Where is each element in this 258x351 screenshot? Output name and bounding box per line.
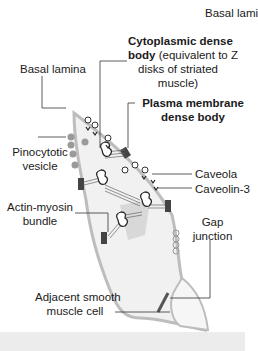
label-adjacent-smooth-muscle-cell: Adjacent smooth muscle cell [35, 290, 115, 318]
label-basal-lamina-top: Basal lamina [205, 6, 258, 20]
label-pinocytotic-line1: Pinocytotic [10, 145, 70, 159]
label-basal-lamina-left: Basal lamina [20, 62, 86, 76]
label-adjacent-line1: Adjacent smooth [35, 290, 115, 304]
label-gap-line2: junction [190, 229, 235, 243]
label-pinocytotic-vesicle: Pinocytotic vesicle [10, 145, 70, 173]
label-plasma-membrane-dense-body: Plasma membrane dense body [138, 96, 248, 124]
bottom-caption-bar [0, 332, 245, 351]
adjacent-cell [171, 278, 208, 330]
label-gap-junction: Gap junction [190, 215, 235, 243]
label-gap-line1: Gap [190, 215, 235, 229]
label-pinocytotic-line2: vesicle [10, 159, 70, 173]
label-actin-myosin-bundle: Actin-myosin bundle [5, 200, 75, 228]
label-cytoplasmic-line1: Cytoplasmic dense [128, 34, 228, 48]
label-caveola: Caveola [195, 167, 237, 181]
label-cytoplasmic-dense-body: Cytoplasmic dense body (equivalent to Z … [128, 34, 228, 90]
label-plasma-line1: Plasma membrane [138, 96, 248, 110]
label-actin-line1: Actin-myosin [5, 200, 75, 214]
label-cytoplasmic-equivalent: (equivalent to Z [155, 49, 237, 61]
label-cytoplasmic-body: body [128, 49, 155, 61]
label-cytoplasmic-line3: disks of striated [128, 62, 228, 76]
label-plasma-line2: dense body [138, 110, 248, 124]
label-adjacent-line2: muscle cell [35, 304, 115, 318]
label-actin-line2: bundle [5, 214, 75, 228]
label-cytoplasmic-line2: body (equivalent to Z [128, 48, 228, 62]
label-caveolin-3: Caveolin-3 [195, 182, 250, 196]
label-cytoplasmic-line4: muscle) [128, 76, 228, 90]
